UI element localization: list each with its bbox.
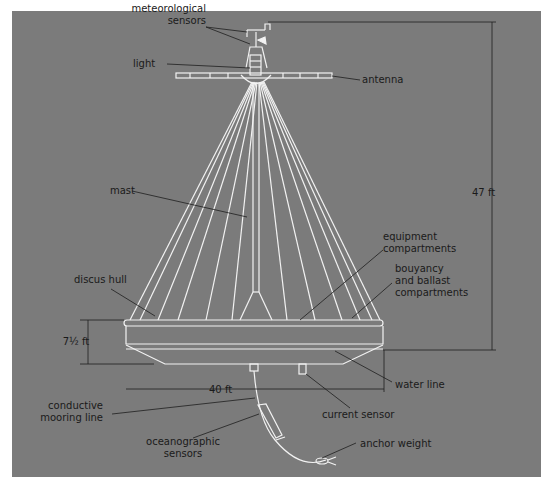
label-mast: mast [110,185,135,196]
label-47ft: 47 ft [472,187,495,198]
label-7-5ft: 7½ ft [63,336,90,347]
label-oceanographic-2: sensors [164,448,202,459]
discus-hull [124,320,383,374]
buoy-diagram: meteorological sensors light antenna mas… [0,0,552,490]
mast-top [241,24,271,84]
label-meteorological-sensors-2: sensors [168,15,206,26]
label-bouyancy-3: compartments [395,287,468,298]
label-bouyancy-2: and ballast [395,275,450,286]
label-40ft: 40 ft [209,384,232,395]
label-equipment-1: equipment [383,231,437,242]
label-discus-hull: discus hull [74,274,127,285]
label-water-line: water line [395,379,445,390]
label-bouyancy-1: bouyancy [395,263,444,274]
label-light: light [133,58,155,69]
label-antenna: antenna [362,74,403,85]
label-oceanographic-1: oceanographic [146,436,220,447]
label-mooring-1: conductive [48,400,103,411]
label-mooring-2: mooring line [40,412,103,423]
label-equipment-2: compartments [383,243,456,254]
label-current-sensor: current sensor [322,409,395,420]
label-meteorological-sensors-1: meteorological [131,3,206,14]
label-anchor-weight: anchor weight [360,438,432,449]
